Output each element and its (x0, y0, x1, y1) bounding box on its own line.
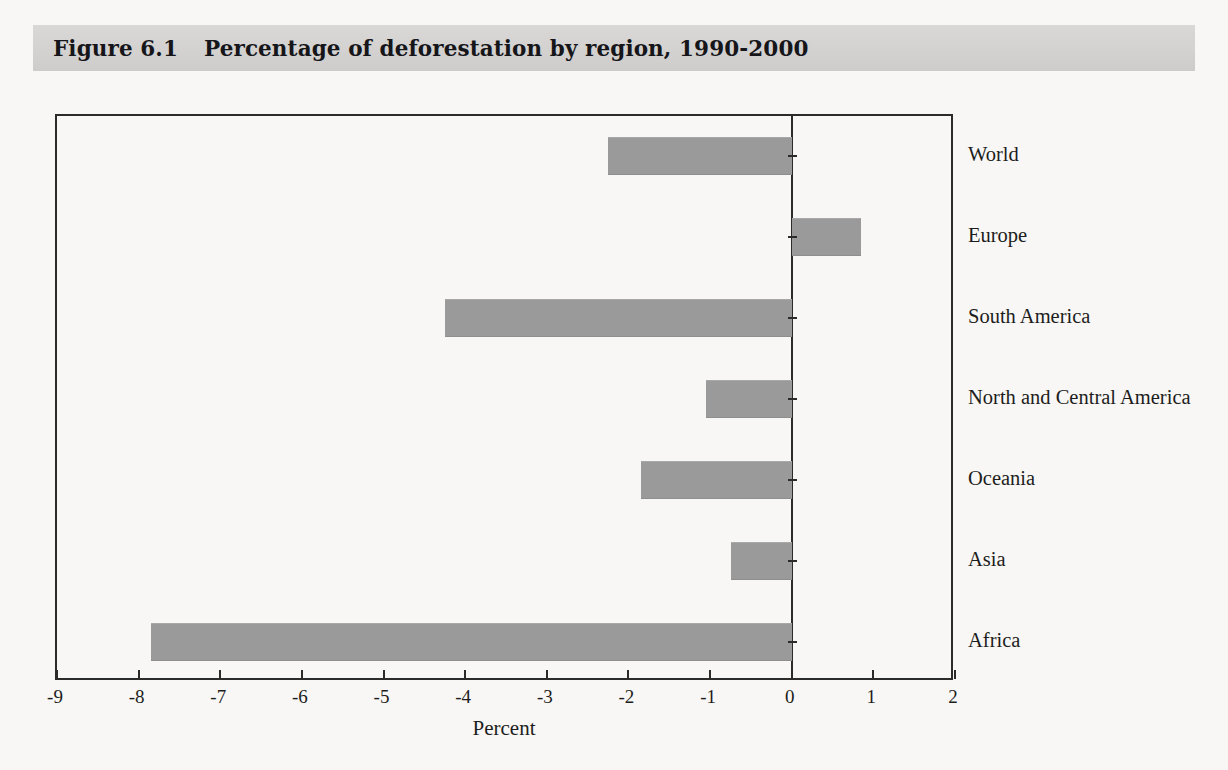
category-label-africa: Africa (968, 628, 1020, 651)
figure-title: Figure 6.1Percentage of deforestation by… (53, 36, 809, 61)
x-axis-tick (301, 670, 303, 679)
bar-row (57, 520, 951, 601)
figure-number-label: Figure 6.1 (53, 36, 178, 61)
category-tick (788, 236, 797, 238)
chart-plot-area (55, 114, 953, 680)
bar-africa (151, 623, 792, 661)
figure-container: Figure 6.1Percentage of deforestation by… (0, 0, 1228, 770)
figure-title-band: Figure 6.1Percentage of deforestation by… (33, 25, 1195, 71)
x-axis-tick-label: -5 (374, 686, 390, 708)
x-axis-tick-label: -2 (619, 686, 635, 708)
bar-row (57, 197, 951, 278)
bar-row (57, 359, 951, 440)
x-axis-tick (627, 670, 629, 679)
bar-row (57, 601, 951, 682)
x-axis-tick (219, 670, 221, 679)
category-tick (788, 398, 797, 400)
bar-asia (731, 542, 792, 580)
bar-europe (792, 218, 861, 256)
bar-row (57, 116, 951, 197)
x-axis-tick-label: -1 (700, 686, 716, 708)
category-label-south-america: South America (968, 305, 1090, 328)
x-axis-tick (546, 670, 548, 679)
x-axis-tick (872, 670, 874, 679)
category-tick (788, 155, 797, 157)
x-axis-tick-label: -6 (292, 686, 308, 708)
category-label-oceania: Oceania (968, 466, 1035, 489)
x-axis-tick-label: -9 (47, 686, 63, 708)
x-axis-tick-label: -3 (537, 686, 553, 708)
bar-south-america (445, 299, 792, 337)
x-axis-tick (138, 670, 140, 679)
x-axis-tick-label: -7 (210, 686, 226, 708)
x-axis-tick-label: 1 (867, 686, 877, 708)
bar-north-and-central-america (706, 380, 792, 418)
x-axis-tick-labels: -9-8-7-6-5-4-3-2-1012 (55, 686, 953, 716)
category-label-north-and-central-america: North and Central America (968, 386, 1191, 409)
bar-row (57, 278, 951, 359)
category-axis-labels: WorldEuropeSouth AmericaNorth and Centra… (968, 114, 1226, 680)
x-axis-tick-label: 0 (785, 686, 795, 708)
x-axis-tick-label: -8 (129, 686, 145, 708)
category-tick (788, 317, 797, 319)
bar-oceania (641, 461, 792, 499)
category-tick (788, 479, 797, 481)
figure-title-text: Percentage of deforestation by region, 1… (204, 36, 809, 61)
x-axis-tick (791, 670, 793, 679)
x-axis-tick-label: 2 (948, 686, 958, 708)
category-tick (788, 641, 797, 643)
x-axis-tick (56, 670, 58, 679)
category-label-asia: Asia (968, 547, 1006, 570)
category-label-europe: Europe (968, 224, 1027, 247)
x-axis-tick-label: -4 (455, 686, 471, 708)
x-axis-tick (464, 670, 466, 679)
bar-world (608, 137, 792, 175)
category-label-world: World (968, 143, 1019, 166)
x-axis-tick (709, 670, 711, 679)
x-axis-title: Percent (55, 716, 953, 741)
bar-row (57, 439, 951, 520)
x-axis-tick (954, 670, 956, 679)
category-tick (788, 560, 797, 562)
x-axis-tick (383, 670, 385, 679)
chart-bars-container (57, 116, 951, 678)
